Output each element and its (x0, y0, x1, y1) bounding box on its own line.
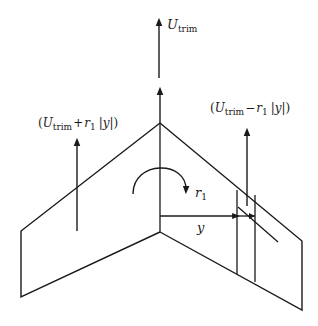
paren-close: ) (286, 101, 291, 115)
left-velocity-label: (Utrim+r1|y|) (38, 117, 118, 132)
u-symbol: U (43, 116, 53, 130)
span-distance-label: y (197, 221, 204, 234)
rate-subscript: 1 (90, 122, 96, 132)
paren-close: ) (114, 116, 119, 130)
right-velocity-label: (Utrim−r1|y|) (210, 102, 290, 117)
trim-subscript: trim (53, 122, 72, 132)
trim-subscript: trim (178, 24, 197, 34)
strip-width-arrowhead (249, 213, 255, 219)
diagram-canvas (0, 0, 318, 326)
u-symbol: U (167, 17, 178, 32)
swept-wing-yaw-diagram: Utrim (Utrim+r1|y|) (Utrim−r1|y|) r1 y (0, 0, 318, 326)
u-trim-label: Utrim (167, 18, 197, 34)
rate-subscript: 1 (201, 192, 207, 202)
u-symbol: U (215, 101, 225, 115)
minus-operator: − (245, 101, 255, 115)
plus-operator: + (73, 116, 83, 130)
y-symbol: y (275, 101, 282, 115)
y-symbol: y (103, 116, 110, 130)
rate-subscript: 1 (262, 107, 268, 117)
yaw-rate-label: r1 (195, 186, 207, 202)
trim-subscript: trim (225, 107, 244, 117)
